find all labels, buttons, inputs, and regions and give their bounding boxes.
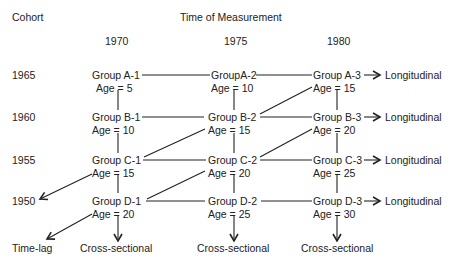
cohort-1955: 1955 bbox=[12, 154, 35, 166]
year-1975: 1975 bbox=[224, 35, 247, 47]
time-lag-label: Time-lag bbox=[12, 242, 52, 254]
cross-sectional-1970: Cross-sectional bbox=[80, 242, 152, 254]
group-a1-age: Age = 5 bbox=[96, 82, 133, 94]
cohort-1960: 1960 bbox=[12, 111, 35, 123]
group-c3-age: Age = 25 bbox=[313, 167, 355, 179]
group-c2-age: Age = 20 bbox=[208, 167, 250, 179]
group-a1-label: Group A-1 bbox=[92, 69, 140, 81]
group-c1-label: Group C-1 bbox=[92, 154, 141, 166]
group-d3-label: Group D-3 bbox=[313, 195, 362, 207]
group-b3-label: Group B-3 bbox=[313, 111, 361, 123]
longitudinal-d: Longitudinal bbox=[385, 195, 442, 207]
longitudinal-c: Longitudinal bbox=[385, 154, 442, 166]
group-c3-label: Group C-3 bbox=[313, 154, 362, 166]
longitudinal-a: Longitudinal bbox=[385, 69, 442, 81]
year-1970: 1970 bbox=[105, 35, 128, 47]
group-c2-label: Group C-2 bbox=[208, 154, 257, 166]
group-d3-age: Age = 30 bbox=[313, 208, 355, 220]
group-d1-age: Age = 20 bbox=[92, 208, 134, 220]
cohort-header: Cohort bbox=[12, 11, 44, 23]
group-b1-age: Age = 10 bbox=[92, 124, 134, 136]
cross-sectional-1975: Cross-sectional bbox=[197, 242, 269, 254]
time-of-measurement-header: Time of Measurement bbox=[180, 11, 282, 23]
year-1980: 1980 bbox=[327, 35, 350, 47]
group-a3-label: Group A-3 bbox=[313, 69, 361, 81]
group-a2-label: GroupA-2 bbox=[211, 69, 257, 81]
group-c1-age: Age = 15 bbox=[92, 167, 134, 179]
group-b3-age: Age = 20 bbox=[313, 124, 355, 136]
group-b2-age: Age = 15 bbox=[208, 124, 250, 136]
group-d1-label: Group D-1 bbox=[92, 195, 141, 207]
cohort-1950: 1950 bbox=[12, 195, 35, 207]
cohort-1965: 1965 bbox=[12, 69, 35, 81]
group-d2-age: Age = 25 bbox=[208, 208, 250, 220]
group-a3-age: Age = 15 bbox=[313, 82, 355, 94]
group-a2-age: Age = 10 bbox=[211, 82, 253, 94]
group-b1-label: Group B-1 bbox=[92, 111, 140, 123]
group-d2-label: Group D-2 bbox=[208, 195, 257, 207]
cross-sectional-1980: Cross-sectional bbox=[301, 242, 373, 254]
group-b2-label: Group B-2 bbox=[208, 111, 256, 123]
longitudinal-b: Longitudinal bbox=[385, 111, 442, 123]
